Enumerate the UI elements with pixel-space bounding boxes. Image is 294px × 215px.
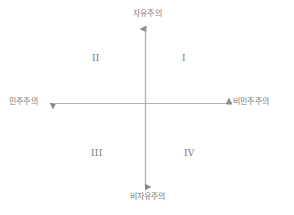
quadrant-label-ii: II [92,53,100,64]
axis-label-bottom-text: 비자유주의 [130,192,166,201]
quadrant-label-iii: III [91,148,103,159]
axis-label-bottom: 비자유주의 [0,191,294,202]
quadrant-diagram: 자유주의 비자유주의 민주주의 비민주주의 I II III IV [0,0,294,215]
axis-label-right: 비민주주의 [233,96,269,107]
axis-label-top-text: 자유주의 [133,9,162,18]
axis-lines-group [0,0,294,215]
quadrant-label-iv: IV [184,148,195,159]
quadrant-label-i: I [182,53,186,64]
axis-label-left: 민주주의 [9,96,38,107]
axis-label-top: 자유주의 [0,8,294,19]
